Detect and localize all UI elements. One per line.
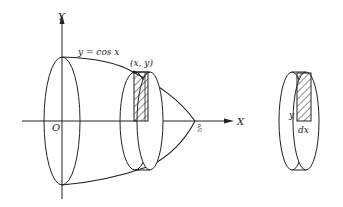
- thickness-label: dx: [298, 125, 309, 135]
- detail-hatched-strip: [297, 73, 311, 121]
- x-end-label: π/2: [197, 124, 203, 132]
- solid-of-revolution-diagram: Y X O y = cos x (x, y) π/2 y dx: [0, 0, 343, 207]
- y-axis-label: Y: [58, 11, 66, 22]
- x-axis-arrow-icon: [224, 119, 234, 124]
- curve-label: y = cos x: [77, 47, 119, 57]
- y-axis: [60, 14, 65, 199]
- point-marker: [132, 70, 135, 73]
- hatched-strip: [134, 72, 148, 121]
- cos-curve-bottom: [62, 121, 195, 185]
- origin-label: O: [52, 122, 60, 133]
- cos-curve-top: [62, 57, 195, 121]
- height-label: y: [288, 110, 295, 120]
- detail-disk: [279, 72, 319, 170]
- x-axis-label: X: [236, 116, 245, 127]
- point-label: (x, y): [130, 58, 153, 68]
